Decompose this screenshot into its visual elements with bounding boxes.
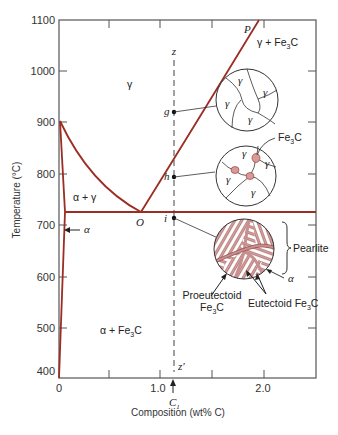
label-eutectoid-fe3c: Eutectoid Fe3C	[248, 297, 319, 311]
y-tick-700: 700	[37, 219, 55, 231]
svg-text:γ: γ	[242, 147, 247, 159]
svg-text:γ: γ	[226, 173, 231, 185]
y-tick-500: 500	[37, 322, 55, 334]
alpha-solvus	[59, 212, 65, 378]
x-tick-0: 0	[56, 382, 62, 394]
region-alpha-fe3c: α + Fe3C	[100, 324, 142, 338]
label-O: O	[136, 216, 144, 228]
microstructure-pearlite	[210, 215, 280, 285]
region-gamma-fe3c: γ + Fe3C	[257, 36, 298, 50]
label-pearlite: Pearlite	[293, 242, 329, 254]
y-tick-1100: 1100	[31, 14, 55, 26]
svg-text:γ: γ	[238, 74, 243, 86]
c1-arrow	[170, 379, 176, 393]
y-tick-600: 600	[37, 271, 55, 283]
label-alpha-region: α	[84, 223, 90, 235]
y-axis-title: Temperature (°C)	[11, 162, 22, 239]
x-tick-1: 1.0	[150, 382, 165, 394]
label-proeutectoid-fe3c: Fe3C	[200, 301, 224, 315]
svg-text:γ: γ	[248, 113, 253, 125]
svg-text:γ: γ	[265, 157, 270, 169]
label-fe3c-top: Fe3C	[278, 131, 302, 145]
alpha-arrow	[64, 227, 80, 233]
y-tick-1000: 1000	[31, 65, 55, 77]
label-h: h	[164, 170, 170, 182]
phase-boundaries	[59, 20, 316, 378]
svg-text:γ: γ	[263, 86, 268, 98]
x-tick-2: 2.0	[255, 382, 270, 394]
label-g: g	[164, 105, 170, 117]
region-alpha-gamma: α + γ	[73, 191, 97, 203]
pearlite-brace	[282, 222, 291, 274]
svg-text:γ: γ	[225, 97, 230, 109]
plot-frame	[59, 20, 316, 378]
y-tick-900: 900	[37, 116, 55, 128]
y-tick-400: 400	[37, 365, 55, 377]
region-gamma: γ	[127, 78, 133, 90]
leader-lines	[174, 106, 218, 238]
svg-text:γ: γ	[251, 186, 256, 198]
label-z: z	[171, 45, 177, 57]
label-z-prime: z′	[177, 360, 185, 372]
label-proeutectoid: Proeutectoid	[183, 289, 242, 301]
y-tick-800: 800	[37, 168, 55, 180]
microstructure-gamma-fe3c: γ γ γ γ	[216, 146, 276, 206]
alpha-gamma-boundary	[60, 121, 65, 212]
phase-diagram: 1100 1000 900 800 700 600 500 400 0 1.0 …	[0, 0, 338, 435]
label-i: i	[164, 212, 167, 224]
label-alpha-pearlite: α	[288, 272, 294, 284]
microstructure-austenite: γ γ γ γ	[216, 69, 278, 131]
label-P: P	[243, 23, 251, 35]
alpha-pearlite-arrow	[266, 269, 284, 278]
